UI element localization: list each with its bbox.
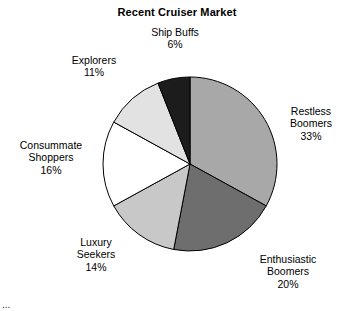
slice-label-restless-boomers-name-line1: Restless: [268, 105, 354, 117]
slice-label-consummate-shoppers: Consummate Shoppers 16%: [0, 139, 102, 176]
slice-label-enthusiastic-boomers-value: 20%: [228, 278, 348, 290]
slice-label-enthusiastic-boomers-name-line2: Boomers: [228, 265, 348, 277]
pie-slice-group: [103, 77, 277, 251]
slice-label-consummate-shoppers-name-line2: Shoppers: [0, 151, 102, 163]
slice-label-ship-buffs-name: Ship Buffs: [119, 26, 231, 38]
pie-chart-figure: Recent Cruiser Market Ship Buffs 6% Rest…: [0, 0, 354, 311]
slice-label-luxury-seekers-value: 14%: [50, 261, 142, 273]
slice-label-restless-boomers-value: 33%: [268, 130, 354, 142]
slice-label-explorers-name: Explorers: [46, 54, 142, 66]
slice-label-explorers-value: 11%: [46, 66, 142, 78]
slice-label-consummate-shoppers-value: 16%: [0, 164, 102, 176]
cropped-footer-region: ...: [0, 301, 354, 311]
slice-label-explorers: Explorers 11%: [46, 54, 142, 79]
slice-label-restless-boomers-name-line2: Boomers: [268, 117, 354, 129]
slice-label-consummate-shoppers-name-line1: Consummate: [0, 139, 102, 151]
slice-label-enthusiastic-boomers: Enthusiastic Boomers 20%: [228, 253, 348, 290]
slice-label-luxury-seekers: Luxury Seekers 14%: [50, 236, 142, 273]
slice-label-luxury-seekers-name-line2: Seekers: [50, 248, 142, 260]
slice-label-enthusiastic-boomers-name-line1: Enthusiastic: [228, 253, 348, 265]
slice-label-luxury-seekers-name-line1: Luxury: [50, 236, 142, 248]
slice-label-ship-buffs-value: 6%: [119, 38, 231, 50]
cropped-footer-text: ...: [2, 301, 10, 310]
slice-label-ship-buffs: Ship Buffs 6%: [119, 26, 231, 51]
slice-label-restless-boomers: Restless Boomers 33%: [268, 105, 354, 142]
